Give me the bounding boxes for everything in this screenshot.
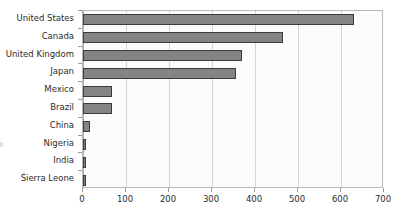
y-axis-label-japan: Japan [0,67,78,76]
x-tick-label-500: 500 [282,194,312,204]
bar-sierra-leone[interactable] [83,175,86,186]
x-tick-700 [383,188,384,192]
bar-canada[interactable] [83,32,283,43]
x-tick-label-200: 200 [153,194,183,204]
x-tick-label-600: 600 [325,194,355,204]
y-axis-label-united-states: United States [0,14,78,23]
x-tick-label-400: 400 [239,194,269,204]
x-tick-500 [297,188,298,192]
x-tick-label-700: 700 [368,194,398,204]
y-axis-label-united-kingdom: United Kingdom [0,50,78,59]
x-tick-0 [82,188,83,192]
bar-chart: United StatesCanadaUnited KingdomJapanMe… [0,0,403,223]
bar-china[interactable] [83,121,90,132]
x-tick-300 [211,188,212,192]
x-tick-400 [254,188,255,192]
x-tick-label-100: 100 [110,194,140,204]
y-axis-label-nigeria: Nigeria [0,139,78,148]
y-axis-category-labels: United StatesCanadaUnited KingdomJapanMe… [0,10,78,188]
x-tick-100 [125,188,126,192]
plot-area [82,10,383,188]
x-tick-label-300: 300 [196,194,226,204]
y-axis-label-canada: Canada [0,32,78,41]
bar-nigeria[interactable] [83,139,86,150]
y-axis-label-mexico: Mexico [0,85,78,94]
y-axis-label-china: China [0,121,78,130]
bar-india[interactable] [83,157,86,168]
y-axis-label-sierra-leone: Sierra Leone [0,174,78,183]
y-axis-label-brazil: Brazil [0,103,78,112]
bar-japan[interactable] [83,68,236,79]
bar-mexico[interactable] [83,86,112,97]
bars-layer [83,11,382,187]
x-tick-label-0: 0 [67,194,97,204]
bar-brazil[interactable] [83,103,112,114]
x-tick-600 [340,188,341,192]
bar-united-states[interactable] [83,14,354,25]
bar-united-kingdom[interactable] [83,50,242,61]
y-axis-label-india: India [0,156,78,165]
x-tick-200 [168,188,169,192]
